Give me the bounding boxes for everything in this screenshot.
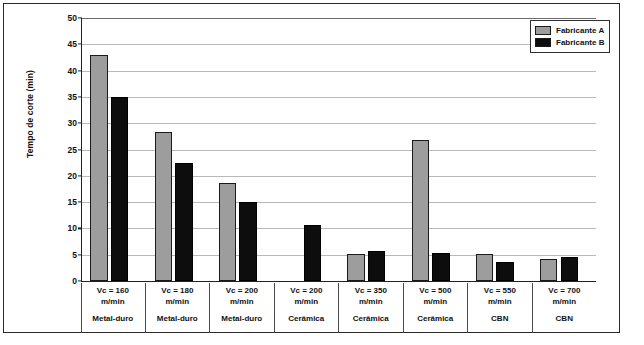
category-material-label: Metal-duro (146, 314, 210, 323)
y-axis-tick-label: 10 (68, 223, 77, 233)
category-speed-label: Vc = 350m/min (339, 286, 403, 307)
category-speed-label: Vc = 200m/min (275, 286, 339, 307)
category-speed-line2: m/min (339, 297, 403, 308)
category-speed-label: Vc = 200m/min (210, 286, 274, 307)
category-speed-line2: m/min (81, 297, 145, 308)
bar-fabricante-a (90, 55, 107, 281)
bar-fabricante-a (219, 183, 236, 281)
category-cell: Vc = 200m/minCerâmica (275, 283, 340, 333)
category-speed-label: Vc = 180m/min (146, 286, 210, 307)
category-speed-line1: Vc = 180 (146, 286, 210, 297)
category-speed-line1: Vc = 160 (81, 286, 145, 297)
bar-group (275, 18, 339, 281)
bar-group (532, 18, 596, 281)
bar-fabricante-b (111, 97, 128, 281)
y-axis-tick-label: 35 (68, 92, 77, 102)
bar-group (211, 18, 275, 281)
category-cell: Vc = 200m/minMetal-duro (210, 283, 275, 333)
bar-group (146, 18, 210, 281)
bar-group (339, 18, 403, 281)
bar-fabricante-a (412, 140, 429, 281)
y-axis-tick-label: 20 (68, 171, 77, 181)
category-speed-label: Vc = 500m/min (404, 286, 468, 307)
category-axis-labels: Vc = 160m/minMetal-duroVc = 180m/minMeta… (81, 283, 596, 333)
category-speed-line1: Vc = 500 (404, 286, 468, 297)
category-speed-line1: Vc = 350 (339, 286, 403, 297)
bar-fabricante-b (304, 225, 321, 281)
y-axis-tick-label: 25 (68, 145, 77, 155)
legend-label: Fabricante A (556, 26, 604, 35)
category-speed-line2: m/min (533, 297, 597, 308)
bar-fabricante-a (540, 259, 557, 281)
category-material-label: CBN (533, 314, 597, 323)
y-axis-tick-label: 0 (72, 276, 77, 286)
category-speed-line2: m/min (275, 297, 339, 308)
category-speed-line2: m/min (404, 297, 468, 308)
y-axis-tick-label: 30 (68, 118, 77, 128)
legend-swatch-icon (535, 38, 551, 47)
legend-swatch-icon (535, 26, 551, 35)
bar-fabricante-b (561, 257, 578, 281)
bar-fabricante-b (368, 251, 385, 281)
category-speed-line1: Vc = 200 (210, 286, 274, 297)
category-material-label: Cerâmica (275, 314, 339, 323)
category-speed-line2: m/min (210, 297, 274, 308)
legend-item: Fabricante B (535, 37, 604, 48)
category-material-label: Metal-duro (210, 314, 274, 323)
bar-fabricante-a (347, 254, 364, 281)
y-axis-tick-label: 50 (68, 13, 77, 23)
category-speed-line2: m/min (146, 297, 210, 308)
category-speed-label: Vc = 550m/min (468, 286, 532, 307)
category-cell: Vc = 160m/minMetal-duro (81, 283, 146, 333)
bar-fabricante-a (155, 132, 172, 281)
chart-figure: Tempo de corte (min) 0510152025303540455… (3, 3, 620, 333)
y-axis-tick-label: 40 (68, 66, 77, 76)
bar-groups (82, 18, 596, 281)
category-cell: Vc = 350m/minCerâmica (339, 283, 404, 333)
category-material-label: Metal-duro (81, 314, 145, 323)
legend-label: Fabricante B (556, 38, 604, 47)
bar-group (403, 18, 467, 281)
category-cell: Vc = 500m/minCerâmica (404, 283, 469, 333)
bar-fabricante-b (496, 262, 513, 281)
category-cell: Vc = 180m/minMetal-duro (146, 283, 211, 333)
chart-legend: Fabricante AFabricante B (530, 20, 610, 53)
bar-fabricante-b (432, 253, 449, 281)
category-cell: Vc = 550m/minCBN (468, 283, 533, 333)
category-material-label: Cerâmica (404, 314, 468, 323)
y-axis-tick-label: 15 (68, 197, 77, 207)
y-axis-tick-label: 45 (68, 39, 77, 49)
category-material-label: Cerâmica (339, 314, 403, 323)
legend-item: Fabricante A (535, 25, 604, 36)
category-speed-line2: m/min (468, 297, 532, 308)
bar-fabricante-b (239, 202, 256, 281)
bar-group (82, 18, 146, 281)
y-axis-title: Tempo de corte (min) (25, 44, 35, 184)
plot-area: 05101520253035404550 (81, 18, 596, 282)
category-speed-label: Vc = 700m/min (533, 286, 597, 307)
category-speed-line1: Vc = 200 (275, 286, 339, 297)
bar-fabricante-a (476, 254, 493, 281)
y-axis-tick-label: 5 (72, 250, 77, 260)
category-material-label: CBN (468, 314, 532, 323)
bar-fabricante-b (175, 163, 192, 281)
category-speed-line1: Vc = 700 (533, 286, 597, 297)
category-speed-line1: Vc = 550 (468, 286, 532, 297)
bar-group (468, 18, 532, 281)
category-cell: Vc = 700m/minCBN (533, 283, 597, 333)
category-speed-label: Vc = 160m/min (81, 286, 145, 307)
